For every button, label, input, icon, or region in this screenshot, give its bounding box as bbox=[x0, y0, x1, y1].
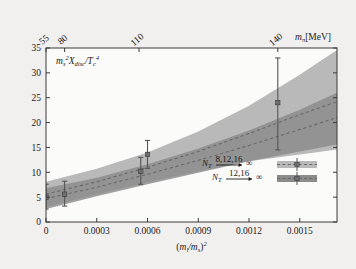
legend-swatch-marker-1 bbox=[295, 162, 299, 166]
legend-arrow-label-1: 8,12,16 bbox=[216, 154, 244, 164]
legend-symbol-sub: T bbox=[208, 162, 212, 169]
x-tick-label-0: 0 bbox=[44, 226, 49, 236]
y-tick-label-2: 10 bbox=[32, 168, 42, 178]
top-tick-label-1: 80 bbox=[56, 33, 70, 47]
chart-figure: 00.00030.00060.00090.00120.0015051015202… bbox=[0, 0, 356, 269]
x-tick-label-4: 0.0012 bbox=[236, 226, 262, 236]
y-tick-label-4: 20 bbox=[32, 118, 42, 128]
x-tick-label-1: 0.0003 bbox=[84, 226, 110, 236]
error-bar-marker bbox=[62, 192, 66, 196]
legend-arrow-label-2: 12,16 bbox=[229, 168, 250, 178]
y-tick-label-6: 30 bbox=[32, 68, 42, 78]
top-tick-label-3: 140 bbox=[267, 31, 285, 48]
top-axis-title: mπ[MeV] bbox=[295, 32, 331, 43]
x-title-sup: 2 bbox=[203, 240, 207, 247]
legend-symbol-sub: T bbox=[218, 176, 222, 183]
y-tick-label-1: 5 bbox=[36, 193, 41, 203]
y-title-sub-disc: disc bbox=[74, 60, 85, 67]
x-axis-title: (ml/ms)2 bbox=[176, 240, 207, 253]
top-tick-label-2: 110 bbox=[129, 31, 146, 48]
x-tick-label-5: 0.0015 bbox=[287, 226, 313, 236]
y-tick-label-5: 25 bbox=[32, 93, 42, 103]
y-tick-label-0: 0 bbox=[36, 217, 41, 227]
y-tick-label-3: 15 bbox=[32, 143, 42, 153]
top-axis-title-unit: [MeV] bbox=[305, 32, 331, 42]
chart-svg: 00.00030.00060.00090.00120.0015051015202… bbox=[0, 0, 356, 269]
error-bar-marker bbox=[145, 152, 149, 156]
legend-limit-1: ∞ bbox=[246, 158, 252, 168]
legend-swatch-marker-2 bbox=[295, 176, 299, 180]
x-title-slash: /m bbox=[187, 242, 198, 252]
error-bar-marker bbox=[139, 169, 143, 173]
x-tick-label-3: 0.0009 bbox=[185, 226, 211, 236]
error-bar-marker bbox=[276, 100, 280, 104]
y-title-sub-c: c bbox=[93, 60, 96, 67]
legend-limit-2: ∞ bbox=[256, 172, 262, 182]
x-tick-label-2: 0.0006 bbox=[134, 226, 160, 236]
y-tick-label-7: 35 bbox=[32, 43, 42, 53]
